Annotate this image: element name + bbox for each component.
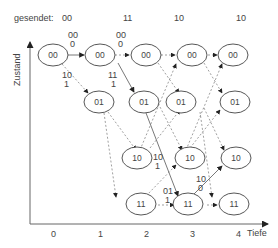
node-label: 00 [48, 50, 58, 60]
edge-label: 0 [198, 183, 203, 193]
edge-label: 1 [111, 79, 116, 89]
node-labels: 00 00 00 00 00 01 01 01 01 10 10 10 11 1… [48, 50, 241, 209]
node-label: 10 [185, 153, 195, 163]
x-tick: 4 [236, 229, 241, 239]
node-label: 01 [94, 97, 104, 107]
sent-value: 00 [62, 13, 72, 23]
node-label: 11 [230, 199, 239, 209]
sent-value: 10 [174, 13, 184, 23]
edge-label: 1 [165, 195, 170, 205]
y-axis-label: Zustand [12, 53, 22, 86]
node-label: 11 [137, 199, 146, 209]
sent-label: gesendet: [14, 13, 54, 23]
node-label: 11 [184, 199, 193, 209]
node-label: 10 [132, 153, 142, 163]
x-tick: 3 [190, 229, 195, 239]
node-label: 00 [141, 50, 151, 60]
x-ticks: 0 1 2 3 4 [51, 229, 241, 239]
trellis-diagram: 00 00 00 00 00 01 01 01 01 10 10 10 11 1… [0, 0, 278, 248]
sent-header: gesendet: 00 11 10 10 [14, 13, 246, 23]
edge-label: 0 [118, 39, 123, 49]
node-label: 01 [176, 97, 186, 107]
x-tick: 0 [51, 229, 56, 239]
edge-label: 1 [64, 79, 69, 89]
node-label: 00 [95, 50, 105, 60]
node-label: 01 [139, 97, 149, 107]
sent-value: 11 [123, 13, 132, 23]
edge-label: 0 [70, 39, 75, 49]
x-tick: 1 [98, 229, 103, 239]
node-label: 01 [230, 97, 240, 107]
node-label: 10 [231, 153, 241, 163]
node-label: 00 [187, 50, 197, 60]
node-label: 00 [228, 50, 238, 60]
x-axis-label: Tiefe [247, 228, 267, 238]
x-tick: 2 [144, 229, 149, 239]
edge-label: 1 [155, 161, 160, 171]
sent-value: 10 [236, 13, 246, 23]
